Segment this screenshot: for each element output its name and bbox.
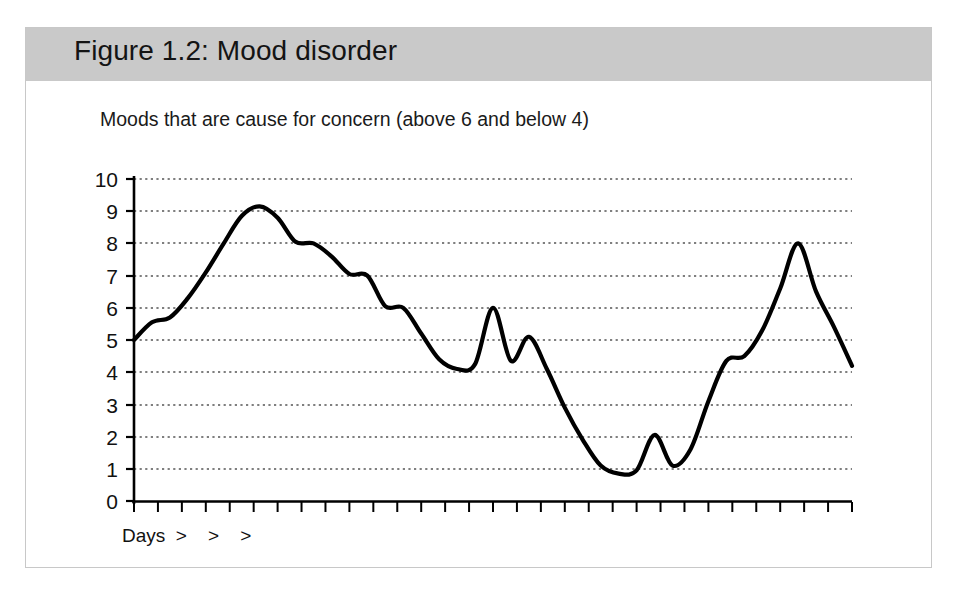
gridlines xyxy=(134,179,852,469)
y-tick-label-10: 10 xyxy=(95,168,118,191)
y-tick-label-8: 8 xyxy=(106,232,118,255)
x-axis-ticks xyxy=(134,502,852,512)
y-tick-label-9: 9 xyxy=(106,200,118,223)
figure-container: Figure 1.2: Mood disorder Moods that are… xyxy=(25,27,932,568)
y-tick-label-5: 5 xyxy=(106,329,118,352)
y-tick-label-4: 4 xyxy=(106,361,118,384)
mood-line-chart: 10 9 8 7 6 5 4 3 2 1 0 xyxy=(26,28,933,569)
chart-plot-area: 10 9 8 7 6 5 4 3 2 1 0 xyxy=(26,28,933,569)
y-tick-label-3: 3 xyxy=(106,394,118,417)
y-axis-labels: 10 9 8 7 6 5 4 3 2 1 0 xyxy=(95,168,119,513)
y-tick-label-2: 2 xyxy=(106,426,118,449)
y-tick-label-0: 0 xyxy=(106,490,118,513)
y-tick-label-7: 7 xyxy=(106,265,118,288)
y-tick-label-6: 6 xyxy=(106,297,118,320)
x-axis-label: Days > > > xyxy=(122,525,251,547)
y-tick-label-1: 1 xyxy=(106,458,118,481)
